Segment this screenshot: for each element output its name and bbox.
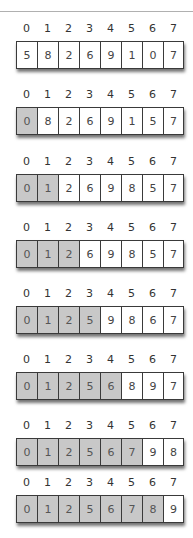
index-label: 6 <box>142 419 163 433</box>
sort-step-3: 0123456701269857 <box>16 221 184 268</box>
array-cell: 9 <box>101 42 122 68</box>
index-label: 4 <box>100 353 121 367</box>
index-label: 1 <box>37 155 58 169</box>
index-label: 0 <box>16 476 37 490</box>
index-label: 4 <box>100 476 121 490</box>
index-label: 7 <box>163 353 184 367</box>
index-label: 3 <box>79 476 100 490</box>
array-cell: 1 <box>122 108 143 134</box>
array-cell: 8 <box>122 307 143 333</box>
array-cell: 7 <box>164 108 183 134</box>
index-labels: 01234567 <box>16 353 184 367</box>
array-cell: 8 <box>122 241 143 267</box>
index-label: 0 <box>16 22 37 36</box>
array-cell: 6 <box>80 175 101 201</box>
array-cell: 9 <box>101 307 122 333</box>
array-box: 01269857 <box>16 240 184 268</box>
array-cell-sorted: 1 <box>38 373 59 399</box>
array-cell-sorted: 0 <box>17 373 38 399</box>
array-box: 01259867 <box>16 306 184 334</box>
array-cell: 6 <box>80 108 101 134</box>
array-box: 01256798 <box>16 438 184 466</box>
array-cell: 7 <box>164 175 183 201</box>
index-label: 2 <box>58 221 79 235</box>
array-box: 58269107 <box>16 41 184 69</box>
array-cell-sorted: 2 <box>59 439 80 465</box>
index-label: 3 <box>79 353 100 367</box>
array-box: 01256897 <box>16 372 184 400</box>
index-label: 4 <box>100 419 121 433</box>
array-cell: 9 <box>101 175 122 201</box>
array-cell-sorted: 1 <box>38 496 59 522</box>
index-label: 1 <box>37 22 58 36</box>
index-label: 2 <box>58 353 79 367</box>
array-cell: 7 <box>164 241 183 267</box>
index-label: 2 <box>58 22 79 36</box>
array-cell: 9 <box>143 373 164 399</box>
index-label: 1 <box>37 476 58 490</box>
array-cell-sorted: 0 <box>17 175 38 201</box>
index-label: 7 <box>163 287 184 301</box>
array-cell-sorted: 0 <box>17 496 38 522</box>
index-label: 0 <box>16 221 37 235</box>
array-cell: 6 <box>143 307 164 333</box>
index-label: 1 <box>37 88 58 102</box>
array-cell: 2 <box>59 175 80 201</box>
index-label: 4 <box>100 155 121 169</box>
array-cell: 9 <box>101 108 122 134</box>
array-cell-sorted: 1 <box>38 307 59 333</box>
array-cell-sorted: 1 <box>38 241 59 267</box>
array-cell: 7 <box>164 307 183 333</box>
array-cell: 8 <box>122 373 143 399</box>
sort-step-7: 0123456701256789 <box>16 476 184 523</box>
index-label: 6 <box>142 353 163 367</box>
array-cell: 6 <box>80 241 101 267</box>
array-cell-sorted: 1 <box>38 439 59 465</box>
array-cell: 7 <box>164 42 183 68</box>
array-cell: 9 <box>164 496 183 522</box>
index-label: 5 <box>121 88 142 102</box>
array-cell-sorted: 0 <box>17 241 38 267</box>
array-cell: 2 <box>59 42 80 68</box>
index-label: 1 <box>37 353 58 367</box>
array-cell: 8 <box>38 42 59 68</box>
array-cell: 0 <box>143 42 164 68</box>
index-labels: 01234567 <box>16 476 184 490</box>
sort-step-2: 0123456701269857 <box>16 155 184 202</box>
array-cell-sorted: 5 <box>80 439 101 465</box>
array-cell-sorted: 2 <box>59 373 80 399</box>
index-label: 0 <box>16 287 37 301</box>
index-label: 1 <box>37 287 58 301</box>
sort-step-1: 0123456708269157 <box>16 88 184 135</box>
index-label: 6 <box>142 287 163 301</box>
array-cell-sorted: 2 <box>59 241 80 267</box>
array-cell: 9 <box>101 241 122 267</box>
index-label: 3 <box>79 287 100 301</box>
array-cell: 1 <box>122 42 143 68</box>
index-label: 3 <box>79 419 100 433</box>
array-cell: 8 <box>164 439 183 465</box>
index-label: 6 <box>142 221 163 235</box>
array-cell-sorted: 6 <box>101 439 122 465</box>
index-label: 2 <box>58 155 79 169</box>
sort-step-5: 0123456701256897 <box>16 353 184 400</box>
index-label: 5 <box>121 221 142 235</box>
array-cell-sorted: 2 <box>59 307 80 333</box>
index-label: 7 <box>163 476 184 490</box>
index-labels: 01234567 <box>16 22 184 36</box>
index-label: 4 <box>100 221 121 235</box>
index-label: 2 <box>58 287 79 301</box>
index-labels: 01234567 <box>16 155 184 169</box>
array-cell-sorted: 6 <box>101 373 122 399</box>
array-cell-sorted: 0 <box>17 307 38 333</box>
sort-step-0: 0123456758269107 <box>16 22 184 69</box>
array-cell: 8 <box>38 108 59 134</box>
index-label: 0 <box>16 419 37 433</box>
array-cell-sorted: 7 <box>122 439 143 465</box>
array-cell-sorted: 6 <box>101 496 122 522</box>
index-label: 7 <box>163 88 184 102</box>
index-label: 3 <box>79 155 100 169</box>
index-label: 3 <box>79 221 100 235</box>
index-label: 5 <box>121 419 142 433</box>
array-box: 01256789 <box>16 495 184 523</box>
